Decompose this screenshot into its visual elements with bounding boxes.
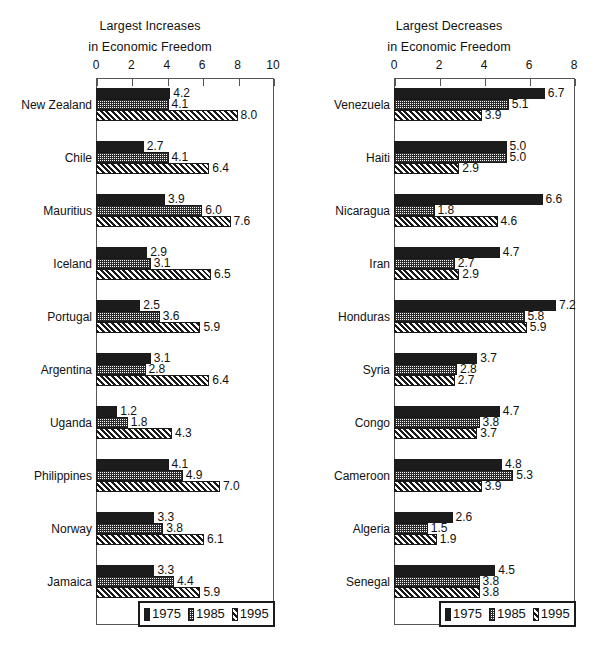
x-axis-tick-label: 8 <box>234 58 241 72</box>
bar-1995 <box>96 110 238 121</box>
bar-1995 <box>394 269 459 280</box>
bar-value-label: 2.5 <box>140 300 160 311</box>
category-label: Norway <box>0 522 92 536</box>
chart-subtitle: in Economic Freedom <box>0 37 300 58</box>
bar-value-label: 8.0 <box>238 110 258 121</box>
bar-1985 <box>394 258 455 269</box>
category-label: Jamaica <box>0 575 92 589</box>
chart-panel-largest-decreases: Largest Decreases in Economic Freedom 02… <box>299 0 599 658</box>
bar-value-label: 7.0 <box>220 481 240 492</box>
bar-value-label: 4.9 <box>183 470 203 481</box>
legend-swatch-icon <box>232 608 238 621</box>
legend-item-1985: 1985 <box>489 607 526 621</box>
bar-1975 <box>394 459 502 470</box>
bar-value-label: 4.4 <box>174 576 194 587</box>
bar-value-label: 6.5 <box>211 269 231 280</box>
category-label: Iceland <box>0 257 92 271</box>
x-axis-tick-label: 8 <box>571 58 578 72</box>
category-label: Cameroon <box>299 469 390 483</box>
legend-label: 1995 <box>240 607 269 621</box>
legend-label: 1995 <box>541 607 570 621</box>
bar-1985 <box>96 470 183 481</box>
chart-title-block-left: Largest Increases in Economic Freedom <box>0 16 300 58</box>
bar-value-label: 5.9 <box>527 322 547 333</box>
bar-1995 <box>394 110 482 121</box>
bar-value-label: 2.9 <box>459 269 479 280</box>
bar-1995 <box>96 534 204 545</box>
category-label: Haiti <box>299 151 390 165</box>
bar-value-label: 3.8 <box>480 587 500 598</box>
bar-1995 <box>96 163 209 174</box>
bar-value-label: 2.9 <box>459 163 479 174</box>
legend-swatch-icon <box>533 608 539 621</box>
bar-1995 <box>394 481 482 492</box>
bar-1995 <box>394 375 455 386</box>
legend-item-1995: 1995 <box>533 607 570 621</box>
legend-label: 1985 <box>497 607 526 621</box>
x-axis-tick-label: 10 <box>266 58 279 72</box>
bar-1975 <box>394 141 507 152</box>
category-label: Nicaragua <box>299 204 390 218</box>
bar-value-label: 2.6 <box>453 512 473 523</box>
legend-item-1975: 1975 <box>445 607 482 621</box>
x-axis-tick-label: 4 <box>481 58 488 72</box>
bar-1985 <box>394 364 457 375</box>
category-label: Uganda <box>0 416 92 430</box>
bar-1995 <box>394 322 527 333</box>
bar-1985 <box>96 152 169 163</box>
bar-value-label: 6.1 <box>204 534 224 545</box>
bar-1995 <box>96 216 231 227</box>
bar-1985 <box>394 523 428 534</box>
bar-value-label: 3.1 <box>151 258 171 269</box>
bar-value-label: 3.7 <box>477 428 497 439</box>
bar-value-label: 5.3 <box>513 470 533 481</box>
bar-1985 <box>96 99 169 110</box>
x-axis-tick-labels-left: 0246810 <box>0 58 300 74</box>
x-axis-tick-label: 0 <box>93 58 100 72</box>
bar-value-label: 3.6 <box>160 311 180 322</box>
bar-1985 <box>394 417 480 428</box>
category-label: Chile <box>0 151 92 165</box>
bar-1975 <box>96 565 154 576</box>
category-label: Honduras <box>299 310 390 324</box>
bar-value-label: 3.8 <box>163 523 183 534</box>
bar-value-label: 2.7 <box>144 141 164 152</box>
legend-item-1975: 1975 <box>144 607 181 621</box>
bar-1985 <box>96 523 163 534</box>
category-label: Syria <box>299 363 390 377</box>
legend-item-1985: 1985 <box>188 607 225 621</box>
bar-1975 <box>96 247 147 258</box>
bar-value-label: 5.0 <box>507 152 527 163</box>
bar-1995 <box>96 587 200 598</box>
category-label: Iran <box>299 257 390 271</box>
bar-1985 <box>394 576 480 587</box>
bar-value-label: 4.7 <box>500 406 520 417</box>
bar-1995 <box>96 375 209 386</box>
bar-1975 <box>394 565 495 576</box>
bar-1995 <box>96 322 200 333</box>
bar-1985 <box>394 311 525 322</box>
bar-value-label: 5.9 <box>200 322 220 333</box>
bar-1985 <box>96 417 128 428</box>
category-label: Portugal <box>0 310 92 324</box>
bar-value-label: 7.6 <box>231 216 251 227</box>
bar-1975 <box>96 406 117 417</box>
bar-value-label: 1.8 <box>128 417 148 428</box>
bar-1975 <box>394 247 500 258</box>
bar-value-label: 2.8 <box>146 364 166 375</box>
category-label: Argentina <box>0 363 92 377</box>
chart-title: Largest Decreases <box>299 16 599 37</box>
bar-1975 <box>96 459 169 470</box>
bar-1975 <box>96 512 154 523</box>
chart-title-block-right: Largest Decreases in Economic Freedom <box>299 16 599 58</box>
bar-1995 <box>394 216 498 227</box>
bar-value-label: 5.9 <box>200 587 220 598</box>
bar-1975 <box>394 194 543 205</box>
bar-1985 <box>394 205 435 216</box>
bar-value-label: 6.7 <box>545 88 565 99</box>
bar-1985 <box>394 152 507 163</box>
legend-left: 197519851995 <box>138 601 275 627</box>
bar-1995 <box>394 163 459 174</box>
x-axis-tick-label: 6 <box>526 58 533 72</box>
legend-swatch-icon <box>144 608 150 621</box>
